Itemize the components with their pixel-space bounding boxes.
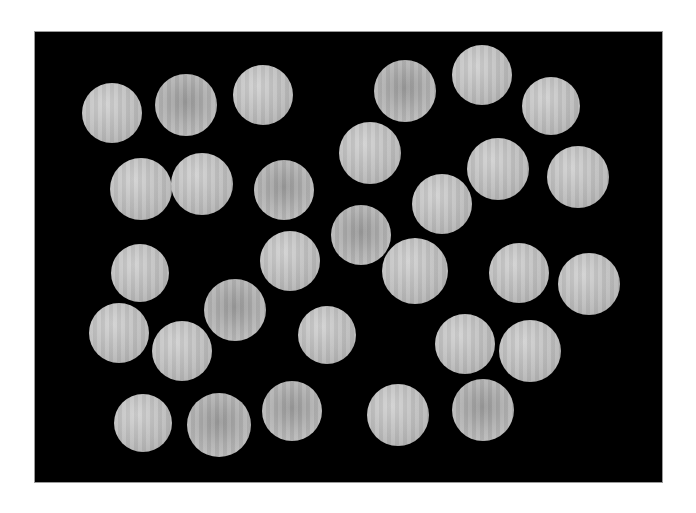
disc (522, 77, 580, 135)
disc (187, 393, 251, 457)
disc (558, 253, 620, 315)
disc (412, 174, 472, 234)
disc (260, 231, 320, 291)
disc (155, 74, 217, 136)
disc (111, 244, 169, 302)
disc (171, 153, 233, 215)
disc (452, 45, 512, 105)
disc (152, 321, 212, 381)
disc (382, 238, 448, 304)
disc (331, 205, 391, 265)
disc (435, 314, 495, 374)
disc (374, 60, 436, 122)
disc (114, 394, 172, 452)
disc (499, 320, 561, 382)
disc (82, 83, 142, 143)
disc (339, 122, 401, 184)
disc (89, 303, 149, 363)
disc (298, 306, 356, 364)
disc (489, 243, 549, 303)
disc (547, 146, 609, 208)
disc (233, 65, 293, 125)
disc (254, 160, 314, 220)
disc (204, 279, 266, 341)
disc (452, 379, 514, 441)
disc (467, 138, 529, 200)
disc (110, 158, 172, 220)
disc (262, 381, 322, 441)
disc (367, 384, 429, 446)
photo-black-background (34, 31, 663, 483)
